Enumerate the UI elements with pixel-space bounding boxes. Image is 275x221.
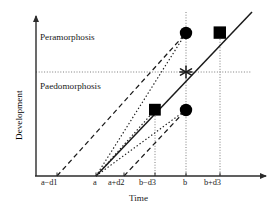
- series-paedomorphic-postdisplacement: [124, 110, 186, 176]
- series-peramorphic-acceleration: [96, 33, 186, 176]
- series-peramorphic-predisplacement: [57, 33, 186, 176]
- marker-upper-circle: [180, 27, 192, 39]
- zone-label-paedomorphosis: Paedomorphosis: [40, 82, 101, 91]
- marker-lower-circle: [180, 104, 192, 116]
- series-reference-ontogeny: [96, 12, 252, 176]
- zone-label-peramorphosis: Peramorphosis: [40, 33, 95, 42]
- x-axis-title: Time: [129, 194, 148, 203]
- x-tick-label-a-minus-d1: a−d1: [41, 179, 57, 187]
- figure-canvas: Peramorphosis Paedomorphosis a−d1 a a+d2…: [0, 0, 275, 221]
- marker-lower-square: [149, 104, 161, 116]
- marker-upper-square: [214, 26, 226, 38]
- series-paedomorphic-progenesis: [96, 110, 186, 176]
- x-tick-label-a-plus-d2: a+d2: [108, 179, 124, 187]
- x-tick-label-b-minus-d3: b−d3: [139, 179, 156, 187]
- y-axis-title: Development: [14, 91, 24, 141]
- x-tick-label-a: a: [93, 179, 97, 187]
- x-tick-label-b: b: [183, 179, 187, 187]
- x-tick-label-b-plus-d3: b+d3: [204, 179, 221, 187]
